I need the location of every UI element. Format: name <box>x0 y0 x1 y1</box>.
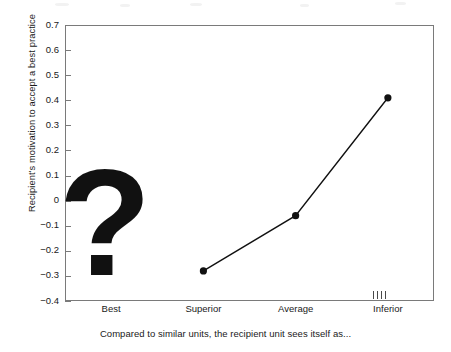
y-axis-tick-label: 0.1 <box>29 169 59 180</box>
y-axis-tick <box>65 50 71 51</box>
scan-artifact <box>300 4 309 7</box>
y-axis-tick-label: 0.6 <box>29 44 59 55</box>
x-axis-tick-label: Average <box>278 303 313 314</box>
y-axis-tick <box>65 75 71 76</box>
y-axis-tick <box>65 125 71 126</box>
y-axis-tick-label: −0.2 <box>29 244 59 255</box>
y-axis-tick-label: 0.5 <box>29 69 59 80</box>
x-axis-tick-label: Inferior <box>373 303 403 314</box>
y-axis-tick <box>65 100 71 101</box>
y-axis-tick-label: 0.2 <box>29 144 59 155</box>
axis-annotation-tick <box>377 291 378 299</box>
scan-artifact <box>120 4 130 7</box>
scan-artifact <box>55 3 69 6</box>
y-axis-tick-label: 0.7 <box>29 19 59 30</box>
scan-artifact <box>395 2 406 5</box>
inferior-axis-tick-marks <box>373 291 386 299</box>
scan-artifact <box>190 3 202 6</box>
axis-annotation-tick <box>381 291 382 299</box>
axis-annotation-tick <box>385 291 386 299</box>
axis-annotation-tick <box>373 291 374 299</box>
chart-figure: Recipient's motivation to accept a best … <box>0 0 451 352</box>
y-axis-tick-label: 0 <box>29 194 59 205</box>
y-axis-tick <box>65 25 71 26</box>
y-axis-tick-label: −0.1 <box>29 219 59 230</box>
missing-value-question-mark: ? <box>59 146 152 298</box>
y-axis-tick-label: −0.4 <box>29 295 59 306</box>
y-axis-tick-label: 0.3 <box>29 119 59 130</box>
y-axis-tick-label: −0.3 <box>29 269 59 280</box>
y-axis-tick-label: 0.4 <box>29 94 59 105</box>
x-axis-title: Compared to similar units, the recipient… <box>0 328 451 339</box>
x-axis-tick-label: Superior <box>185 303 221 314</box>
